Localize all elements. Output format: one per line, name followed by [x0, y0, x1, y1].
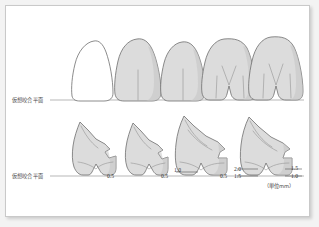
upper-tooth-1-outline	[72, 41, 113, 101]
upper-tooth-2	[115, 39, 161, 101]
upper-tooth-1	[72, 41, 113, 101]
dimension-label-0: 0.5	[107, 173, 114, 179]
upper-tooth-4	[202, 39, 256, 100]
upper-tooth-5-outline	[249, 37, 303, 100]
lower-plane-label: 仮想咬合平面	[12, 172, 43, 180]
figure-root: 仮想咬合平面	[0, 0, 319, 227]
upper-tooth-4-outline	[202, 39, 256, 100]
dental-diagram-svg: 仮想咬合平面	[6, 6, 309, 216]
lower-tooth-2	[125, 123, 168, 175]
upper-tooth-5	[249, 37, 303, 100]
dimension-label-2: 1.0	[174, 167, 181, 173]
upper-plane-label: 仮想咬合平面	[12, 96, 43, 104]
dimension-label-1: 0.5	[161, 173, 168, 179]
dimension-label-3: 0.5	[220, 173, 227, 179]
lower-tooth-3	[175, 116, 227, 175]
dimension-label-7: 1.0	[291, 173, 298, 179]
upper-tooth-3	[161, 42, 205, 101]
dimension-label-6: 1.5	[291, 165, 298, 171]
lower-tooth-1	[72, 122, 116, 175]
lower-tooth-4	[240, 117, 292, 175]
dimension-label-4: 1.5	[234, 173, 241, 179]
unit-note: （単位mm）	[264, 182, 294, 190]
dimension-label-5: 2.0	[234, 166, 241, 172]
figure-card: 仮想咬合平面	[5, 5, 310, 217]
